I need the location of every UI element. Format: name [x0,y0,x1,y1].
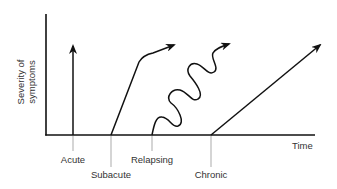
symptom-onset-diagram: Severity of symptoms Time Acute Subacute… [0,0,337,189]
y-axis-label: Severity of symptoms [15,59,37,104]
x-axis-label: Time [292,140,313,151]
svg-text:symptoms: symptoms [26,60,37,104]
relapsing-arrow [152,44,229,135]
subacute-arrow [111,45,174,135]
chronic-label: Chronic [195,169,228,180]
relapsing-label: Relapsing [131,154,173,165]
chronic-arrow [211,45,320,135]
acute-label: Acute [61,154,85,165]
svg-text:Severity of: Severity of [15,59,26,104]
subacute-label: Subacute [91,169,131,180]
